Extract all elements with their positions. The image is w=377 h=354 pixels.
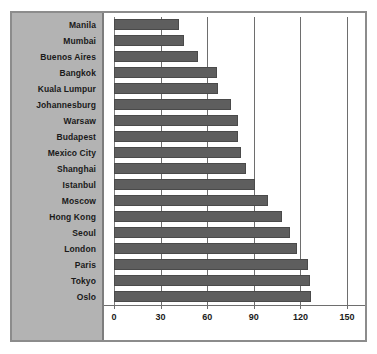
bar-row — [104, 289, 365, 305]
bar-row — [104, 17, 365, 33]
bar-chart-figure: ManilaMumbaiBuenos AiresBangkokKuala Lum… — [10, 11, 367, 342]
category-label: Kuala Lumpur — [12, 81, 96, 97]
bar-row — [104, 209, 365, 225]
bar — [114, 51, 198, 62]
chart-plot-wrapper: ManilaMumbaiBuenos AiresBangkokKuala Lum… — [12, 13, 365, 340]
category-label: Budapest — [12, 129, 96, 145]
bar-row — [104, 145, 365, 161]
bar — [114, 35, 184, 46]
bar-row — [104, 81, 365, 97]
bar-row — [104, 273, 365, 289]
bar-row — [104, 177, 365, 193]
x-tick-mark — [254, 305, 255, 309]
bar-row — [104, 65, 365, 81]
bar-row — [104, 97, 365, 113]
bar — [114, 259, 308, 270]
x-tick-mark — [207, 305, 208, 309]
bar — [114, 67, 217, 78]
category-label: Warsaw — [12, 113, 96, 129]
x-tick-label: 30 — [156, 312, 166, 322]
category-label: Seoul — [12, 225, 96, 241]
bar-rows — [104, 17, 365, 305]
x-axis-line — [104, 305, 365, 306]
category-label: Johannesburg — [12, 97, 96, 113]
bar — [114, 131, 238, 142]
x-axis: 0306090120150 — [104, 305, 365, 339]
x-tick-mark — [347, 305, 348, 309]
category-label-list: ManilaMumbaiBuenos AiresBangkokKuala Lum… — [12, 17, 96, 305]
category-label: Buenos Aires — [12, 49, 96, 65]
plot-area: 0306090120150 — [104, 13, 365, 340]
category-label: Bangkok — [12, 65, 96, 81]
bar-row — [104, 225, 365, 241]
category-label: Paris — [12, 257, 96, 273]
bar — [114, 147, 241, 158]
bar — [114, 115, 238, 126]
bars-region — [104, 17, 365, 305]
bar — [114, 227, 290, 238]
category-label-panel: ManilaMumbaiBuenos AiresBangkokKuala Lum… — [12, 13, 104, 340]
bar-row — [104, 113, 365, 129]
bar-row — [104, 257, 365, 273]
bar — [114, 179, 255, 190]
bar — [114, 99, 231, 110]
category-label: Tokyo — [12, 273, 96, 289]
category-label: Mumbai — [12, 33, 96, 49]
bar-row — [104, 129, 365, 145]
bar-row — [104, 241, 365, 257]
x-tick-label: 60 — [202, 312, 212, 322]
category-label: Oslo — [12, 289, 96, 305]
category-label: London — [12, 241, 96, 257]
category-label: Mexico City — [12, 145, 96, 161]
x-tick-mark — [114, 305, 115, 309]
category-label: Hong Kong — [12, 209, 96, 225]
x-tick-label: 150 — [339, 312, 354, 322]
bar — [114, 291, 311, 302]
bar-row — [104, 193, 365, 209]
x-tick-label: 120 — [293, 312, 308, 322]
category-label: Shanghai — [12, 161, 96, 177]
x-tick-mark — [300, 305, 301, 309]
category-label: Moscow — [12, 193, 96, 209]
x-tick-mark — [161, 305, 162, 309]
x-tick-label: 0 — [111, 312, 116, 322]
x-tick-label: 90 — [249, 312, 259, 322]
bar — [114, 243, 297, 254]
bar — [114, 19, 179, 30]
bar-row — [104, 161, 365, 177]
bar — [114, 275, 310, 286]
category-label: Manila — [12, 17, 96, 33]
bar — [114, 211, 282, 222]
bar — [114, 163, 246, 174]
bar — [114, 83, 218, 94]
category-label: Istanbul — [12, 177, 96, 193]
bar-row — [104, 49, 365, 65]
bar — [114, 195, 268, 206]
bar-row — [104, 33, 365, 49]
